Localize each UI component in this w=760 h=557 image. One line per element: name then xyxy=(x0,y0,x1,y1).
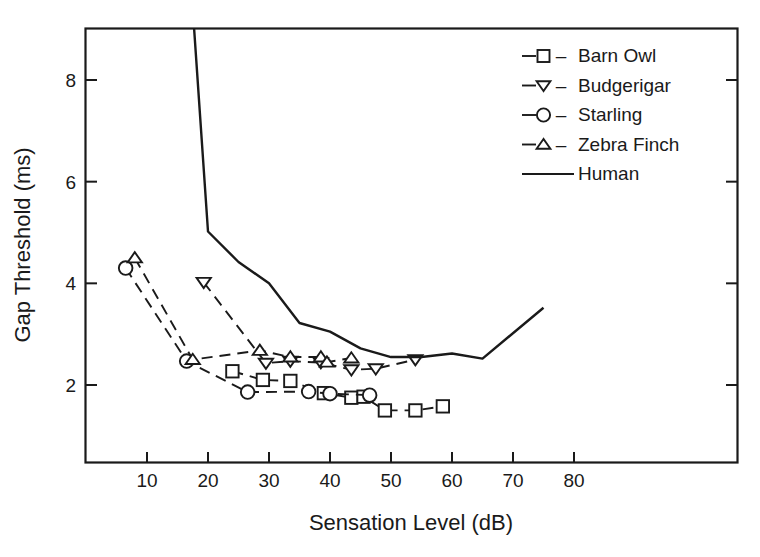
legend-label: Budgerigar xyxy=(578,75,672,96)
marker-circle xyxy=(323,387,337,401)
x-tick-label: 80 xyxy=(563,470,584,491)
legend-dash: – xyxy=(556,134,567,155)
y-tick-label: 2 xyxy=(65,375,76,396)
legend-dash: – xyxy=(556,104,567,125)
gap-threshold-chart: 1020304050607080 2468 Sensation Level (d… xyxy=(0,0,760,557)
legend-label: Barn Owl xyxy=(578,45,656,66)
legend-label: Starling xyxy=(578,104,642,125)
marker-circle xyxy=(302,385,316,399)
marker-square xyxy=(538,50,550,62)
marker-square xyxy=(379,404,391,416)
marker-square xyxy=(284,375,296,387)
marker-circle xyxy=(537,108,550,121)
marker-square xyxy=(257,374,269,386)
x-tick-label: 50 xyxy=(380,470,401,491)
marker-square xyxy=(409,404,421,416)
legend-dash: – xyxy=(556,45,567,66)
y-tick-label: 4 xyxy=(65,273,76,294)
legend-label: Zebra Finch xyxy=(578,134,679,155)
y-tick-label: 6 xyxy=(65,172,76,193)
x-tick-label: 30 xyxy=(258,470,279,491)
x-tick-label: 70 xyxy=(502,470,523,491)
marker-circle xyxy=(241,385,255,399)
y-tick-label: 8 xyxy=(65,70,76,91)
marker-circle xyxy=(363,388,377,402)
legend-label: Human xyxy=(578,163,639,184)
x-tick-label: 40 xyxy=(319,470,340,491)
legend-dash: – xyxy=(556,75,567,96)
x-axis-title: Sensation Level (dB) xyxy=(309,510,513,535)
figure-container: 1020304050607080 2468 Sensation Level (d… xyxy=(0,0,760,557)
x-tick-label: 10 xyxy=(136,470,157,491)
x-tick-label: 20 xyxy=(197,470,218,491)
x-tick-label: 60 xyxy=(441,470,462,491)
marker-square xyxy=(226,365,238,377)
marker-square xyxy=(437,400,449,412)
y-axis-title: Gap Threshold (ms) xyxy=(10,147,35,342)
